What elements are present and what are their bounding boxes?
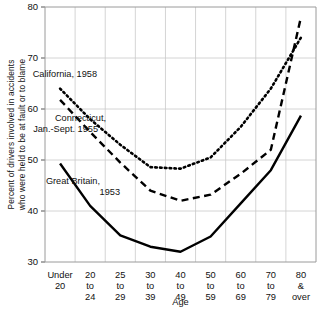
x-category-label: to	[237, 281, 245, 291]
x-category-label: 80	[296, 270, 306, 280]
x-category-label: 30	[145, 270, 155, 280]
y-axis-title-line: Percent of drivers involved in accidents	[6, 60, 16, 210]
accident-fault-by-age-line-chart: 304050607080Under2020to2425to2930to3940t…	[0, 0, 325, 310]
y-tick-label: 40	[27, 205, 38, 216]
x-category-label: 25	[115, 270, 125, 280]
x-category-label: 20	[85, 270, 95, 280]
x-category-label: 60	[236, 270, 246, 280]
chart-container: 304050607080Under2020to2425to2930to3940t…	[0, 0, 325, 310]
x-category-label: &	[298, 281, 305, 291]
series-annotation: California, 1958	[33, 69, 97, 79]
x-category-label: to	[207, 281, 215, 291]
x-category-label: 40	[175, 270, 185, 280]
x-category-label: to	[147, 281, 155, 291]
x-category-label: to	[116, 281, 124, 291]
x-category-label: to	[267, 281, 275, 291]
x-category-label: 70	[266, 270, 276, 280]
series-annotation: Great Britain,	[46, 176, 100, 186]
x-category-label: to	[177, 281, 185, 291]
series-annotation: 1953	[100, 187, 120, 197]
series-annotation: Connecticut,	[55, 113, 106, 123]
y-tick-label: 80	[27, 1, 38, 12]
x-category-label: 79	[266, 292, 276, 302]
y-axis-title-line: who were held to be at fault or to blame	[17, 59, 27, 212]
x-axis-title: Age	[172, 297, 189, 307]
x-category-label: 29	[115, 292, 125, 302]
y-tick-label: 70	[27, 52, 38, 63]
x-category-label: 50	[205, 270, 215, 280]
x-category-label: 39	[145, 292, 155, 302]
series-line-0	[60, 38, 301, 169]
y-tick-label: 30	[27, 256, 38, 267]
y-tick-label: 50	[27, 154, 38, 165]
x-category-label: 69	[236, 292, 246, 302]
x-category-label: to	[86, 281, 94, 291]
y-tick-label: 60	[27, 103, 38, 114]
x-category-label: 24	[85, 292, 95, 302]
x-category-label: Under	[47, 270, 72, 280]
series-annotation: Jan.-Sept. 1955	[33, 124, 98, 134]
x-category-label: over	[292, 292, 310, 302]
x-category-label: 59	[205, 292, 215, 302]
x-category-label: 20	[55, 281, 65, 291]
